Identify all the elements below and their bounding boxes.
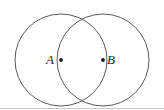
figure-canvas: A B: [0, 0, 164, 110]
intersecting-circles-diagram: [0, 0, 164, 110]
point-b-dot: [101, 58, 105, 62]
point-b-label: B: [107, 53, 115, 66]
point-a-dot: [59, 58, 63, 62]
point-a-label: A: [46, 53, 54, 66]
